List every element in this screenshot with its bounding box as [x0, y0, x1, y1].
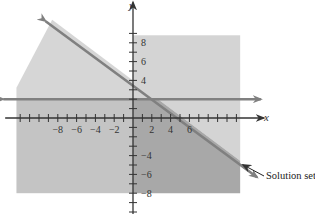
annotation-solution-set: Solution set: [266, 170, 315, 181]
x-tick-label: −6: [71, 124, 82, 135]
y-tick-label: 4: [141, 75, 146, 86]
x-tick-label: −8: [52, 124, 63, 135]
y-tick-label: 6: [141, 56, 146, 67]
region-upper-left: [16, 20, 133, 99]
y-tick-label: 8: [141, 37, 146, 48]
y-tick-label: −6: [141, 169, 152, 180]
y-tick-label: −4: [141, 150, 152, 161]
y-axis-label: y: [128, 0, 134, 11]
inequality-graph: −8−6−4−2246864−4−6−8 x y Solution set: [0, 0, 315, 216]
y-tick-label: −8: [141, 188, 152, 199]
region-upper-right: [133, 35, 240, 99]
x-tick-label: 4: [168, 124, 173, 135]
x-tick-label: −4: [90, 124, 101, 135]
shaded-regions: [16, 20, 240, 193]
x-axis-label: x: [263, 111, 269, 123]
x-tick-label: −2: [109, 124, 120, 135]
x-tick-label: 6: [187, 124, 192, 135]
x-tick-label: 2: [149, 124, 154, 135]
annotations: Solution set: [243, 165, 315, 181]
region-left-below-horizontal: [16, 99, 133, 193]
